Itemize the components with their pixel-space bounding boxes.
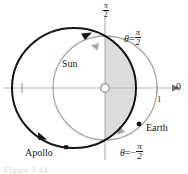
polar-axis <box>4 83 180 93</box>
theta-negative-label: θ=− π 2 <box>120 142 143 162</box>
vertical-axis-fraction: π 2 <box>103 2 109 18</box>
sun-label: Sun <box>62 59 78 69</box>
apollo-orbit-arrow-bottom <box>38 132 47 140</box>
theta-positive-label: θ= π 2 <box>124 28 141 48</box>
polar-axis-label: 0 <box>176 82 181 92</box>
vertical-axis-label: π 2 <box>103 2 109 18</box>
sun-marker <box>101 84 109 92</box>
theta-negative-denominator: 2 <box>136 152 143 161</box>
theta-positive-denominator: 2 <box>135 38 142 47</box>
theta-positive-fraction: π 2 <box>135 28 142 48</box>
polar-orbit-figure: Sun Apollo Earth 0 1 π 2 θ= π 2 θ=− π 2 … <box>0 0 188 174</box>
radial-tick-label: 1 <box>157 95 162 104</box>
earth-label: Earth <box>146 123 168 133</box>
theta-negative-fraction: π 2 <box>136 142 143 162</box>
earth-marker <box>137 122 142 127</box>
figure-caption: Figure 9.44 <box>4 165 48 174</box>
earth-orbit-arrow-top <box>91 43 99 51</box>
apollo-marker <box>64 145 68 149</box>
apollo-label: Apollo <box>25 148 53 158</box>
vertical-axis-denominator: 2 <box>103 11 109 19</box>
